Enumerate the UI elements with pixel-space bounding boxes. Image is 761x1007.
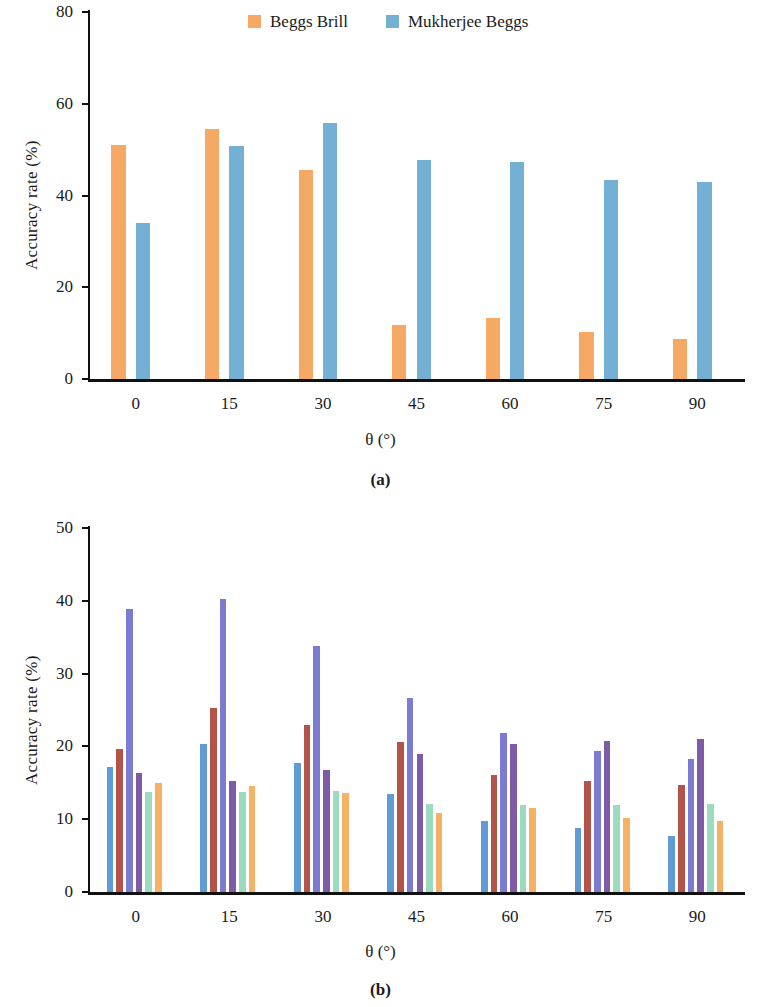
y-axis-tick-label: 10 [21, 810, 73, 827]
bar [294, 763, 301, 892]
x-axis-tick-label: 75 [574, 908, 634, 925]
bar [323, 123, 337, 379]
x-axis-tick-label: 60 [480, 395, 540, 412]
x-axis-title-a: θ (°) [0, 430, 761, 450]
y-axis-tick-mark [82, 745, 90, 747]
bar [604, 180, 618, 379]
bar [126, 609, 133, 892]
y-axis-tick-label: 20 [21, 278, 73, 295]
figure-container: Beggs BrillMukherjee Beggs 020406080 015… [0, 0, 761, 1007]
bar [697, 182, 711, 379]
bars-layer-b [89, 528, 744, 892]
bar [145, 792, 152, 892]
bar [575, 828, 582, 892]
bar [623, 818, 630, 892]
bar [604, 741, 611, 892]
bar [299, 170, 313, 379]
y-axis-tick-mark [82, 891, 90, 893]
y-axis-tick-label: 0 [21, 883, 73, 900]
y-axis-tick-label: 60 [21, 95, 73, 112]
x-axis-tick-label: 45 [387, 395, 447, 412]
bar [323, 770, 330, 892]
bar [529, 808, 536, 892]
bar [613, 805, 620, 892]
panel-caption-b: (b) [0, 980, 761, 1000]
x-axis-tick-label: 75 [574, 395, 634, 412]
y-axis-tick-label: 40 [21, 592, 73, 609]
bar [229, 146, 243, 380]
y-axis-title-b: Accuracy rate (%) [22, 655, 42, 785]
bar [342, 793, 349, 892]
x-axis-tick-label: 90 [667, 395, 727, 412]
y-axis-tick-mark [82, 286, 90, 288]
x-axis-tick-label: 90 [667, 908, 727, 925]
bar [220, 599, 227, 892]
y-axis-tick-mark [82, 818, 90, 820]
bar [239, 792, 246, 892]
bar [107, 767, 114, 892]
bar [136, 773, 143, 892]
x-axis-tick-label: 15 [199, 395, 259, 412]
x-axis-title-b: θ (°) [0, 942, 761, 962]
bar [510, 744, 517, 893]
bar [304, 725, 311, 892]
x-axis-tick-label: 30 [293, 395, 353, 412]
bar [426, 804, 433, 892]
bar [491, 775, 498, 892]
x-axis-tick-label: 0 [106, 908, 166, 925]
bar [397, 742, 404, 892]
bar [229, 781, 236, 892]
bar [678, 785, 685, 892]
x-axis-line-a [88, 379, 745, 382]
x-axis-tick-label: 30 [293, 908, 353, 925]
y-axis-tick-label: 80 [21, 3, 73, 20]
bar [584, 781, 591, 892]
bar [417, 160, 431, 379]
y-axis-tick-label: 0 [21, 370, 73, 387]
bar [392, 325, 406, 379]
bar [673, 339, 687, 379]
y-axis-tick-mark [82, 11, 90, 13]
bar [387, 794, 394, 892]
bar [407, 698, 414, 892]
y-axis-tick-mark [82, 600, 90, 602]
bar [688, 759, 695, 892]
panel-caption-a: (a) [0, 470, 761, 490]
plot-area-b [89, 528, 744, 892]
y-axis-title-a: Accuracy rate (%) [22, 140, 42, 270]
x-axis-tick-label: 15 [199, 908, 259, 925]
bar [697, 739, 704, 892]
bar [313, 646, 320, 892]
bar [481, 821, 488, 892]
y-axis-tick-mark [82, 103, 90, 105]
y-axis-tick-mark [82, 527, 90, 529]
bar [717, 821, 724, 892]
bar [417, 754, 424, 892]
bar [116, 749, 123, 892]
bar [210, 708, 217, 892]
bar [200, 744, 207, 893]
bar [136, 223, 150, 379]
x-axis-tick-label: 45 [387, 908, 447, 925]
y-axis-tick-mark [82, 195, 90, 197]
bar [707, 804, 714, 892]
y-axis-line-b [88, 526, 90, 894]
bar [510, 162, 524, 379]
y-axis-tick-label: 50 [21, 519, 73, 536]
bar [155, 783, 162, 892]
bar [333, 791, 340, 892]
bar [436, 813, 443, 892]
bar [594, 751, 601, 892]
bar [111, 145, 125, 379]
x-axis-tick-label: 0 [106, 395, 166, 412]
y-axis-tick-mark [82, 378, 90, 380]
plot-area-a [89, 12, 744, 379]
bar [205, 129, 219, 379]
bar [668, 836, 675, 892]
bars-layer-a [89, 12, 744, 379]
y-axis-tick-mark [82, 673, 90, 675]
x-axis-line-b [88, 892, 745, 895]
bar [520, 805, 527, 892]
bar [500, 733, 507, 892]
bar [249, 786, 256, 892]
